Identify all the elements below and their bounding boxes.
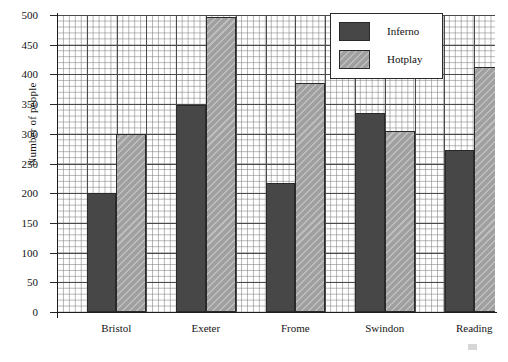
legend-swatch-inferno <box>339 22 370 41</box>
y-axis-tick-label: 100 <box>22 247 39 258</box>
bar-hotplay-frome <box>295 83 325 312</box>
y-axis-tick-labels: 050100150200250300350400450500 <box>0 0 50 362</box>
gridline-horizontal <box>57 104 495 105</box>
y-axis-tick-label: 500 <box>22 10 39 21</box>
y-axis-tick-mark <box>50 134 57 135</box>
legend-label-hotplay: Hotplay <box>387 53 422 65</box>
legend: Inferno Hotplay <box>330 13 443 79</box>
gridline-vertical <box>146 15 147 312</box>
legend-entry-inferno: Inferno <box>339 22 439 42</box>
x-axis-line <box>52 312 497 313</box>
y-axis-tick-mark <box>50 164 57 165</box>
bar-inferno-reading <box>445 150 475 312</box>
y-axis-tick-mark <box>50 193 57 194</box>
y-axis-tick-label: 250 <box>22 158 39 169</box>
x-axis-label-frome: Frome <box>281 322 310 334</box>
x-axis-label-bristol: Bristol <box>101 322 131 334</box>
legend-entry-hotplay: Hotplay <box>339 50 439 70</box>
y-axis-tick-mark <box>50 15 57 16</box>
y-axis-tick-label: 200 <box>22 188 39 199</box>
bar-inferno-exeter <box>176 105 206 312</box>
bar-hotplay-exeter <box>206 17 236 312</box>
gridline-vertical <box>236 15 237 312</box>
y-axis-tick-label: 300 <box>22 128 39 139</box>
y-axis-tick-label: 400 <box>22 69 39 80</box>
y-axis-tick-mark <box>50 282 57 283</box>
bar-chart: Number of people 05010015020025030035040… <box>0 0 508 362</box>
y-axis-tick-mark <box>50 223 57 224</box>
legend-label-inferno: Inferno <box>387 25 419 37</box>
y-axis-tick-label: 0 <box>33 307 39 318</box>
x-axis-label-reading: Reading <box>456 322 493 334</box>
y-axis-tick-label: 50 <box>27 277 38 288</box>
y-axis-tick-mark <box>50 45 57 46</box>
x-axis-label-exeter: Exeter <box>191 322 220 334</box>
bar-inferno-frome <box>266 183 296 312</box>
y-axis-tick-mark <box>50 74 57 75</box>
scan-artifact <box>468 344 477 350</box>
y-axis-tick-mark <box>50 253 57 254</box>
y-axis-tick-label: 450 <box>22 39 39 50</box>
bar-inferno-bristol <box>87 193 117 312</box>
y-axis-tick-mark <box>50 104 57 105</box>
bar-hotplay-reading <box>474 67 495 312</box>
y-axis-tick-label: 350 <box>22 99 39 110</box>
bar-inferno-swindon <box>355 113 385 312</box>
bar-hotplay-swindon <box>385 131 415 312</box>
bar-hotplay-bristol <box>116 134 146 312</box>
legend-swatch-hotplay <box>339 50 370 69</box>
x-axis-label-swindon: Swindon <box>365 322 404 334</box>
y-axis-tick-label: 150 <box>22 217 39 228</box>
y-axis-line <box>57 13 58 318</box>
gridline-vertical <box>325 15 326 312</box>
